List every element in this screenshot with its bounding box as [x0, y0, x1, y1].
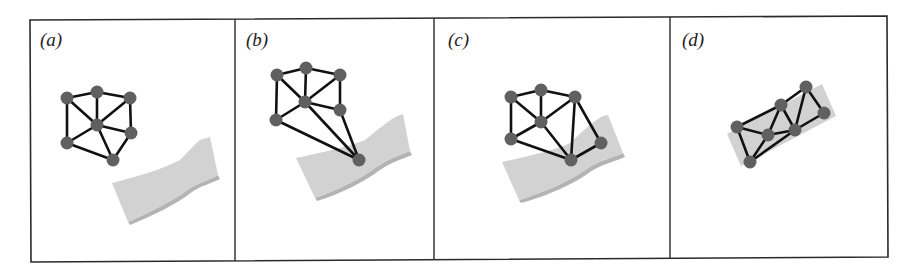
graph-node: [270, 114, 283, 127]
graph-node: [818, 107, 831, 120]
graph-node: [107, 154, 120, 167]
graph-node: [731, 121, 744, 134]
graph-node: [744, 156, 757, 169]
graph-node: [789, 124, 802, 137]
graph-node: [762, 129, 775, 142]
panel-c: (c): [448, 29, 625, 203]
graph-node: [271, 69, 284, 82]
graph-node: [125, 127, 138, 140]
graph-node: [124, 92, 137, 105]
graph-node: [300, 62, 313, 75]
surface-shape: [112, 137, 218, 222]
graph-node: [569, 91, 582, 104]
panel-label: (d): [682, 29, 704, 51]
graph-node: [334, 69, 347, 82]
panel-label: (c): [448, 29, 469, 51]
graph-node: [535, 116, 548, 129]
graph-node: [61, 92, 74, 105]
graph-node: [334, 104, 347, 117]
panel-d: (d): [682, 29, 836, 169]
graph-node: [775, 99, 788, 112]
graph-node: [535, 84, 548, 97]
graph-node: [91, 119, 104, 132]
panel-b: (b): [246, 29, 412, 201]
graph-node: [565, 154, 578, 167]
graph-edge: [305, 75, 340, 102]
graph-node: [505, 133, 518, 146]
panels: (a)(b)(c)(d): [40, 29, 836, 225]
graph-node: [61, 137, 74, 150]
graph-node: [353, 154, 366, 167]
graph-node: [595, 137, 608, 150]
panel-label: (b): [246, 29, 268, 51]
graph-node: [800, 81, 813, 94]
panel-a: (a): [40, 29, 220, 225]
graph-node: [505, 91, 518, 104]
panel-label: (a): [40, 29, 62, 51]
graph-node: [91, 86, 104, 99]
figure-canvas: (a)(b)(c)(d): [0, 0, 909, 273]
graph-edge: [276, 75, 277, 120]
graph-node: [299, 96, 312, 109]
